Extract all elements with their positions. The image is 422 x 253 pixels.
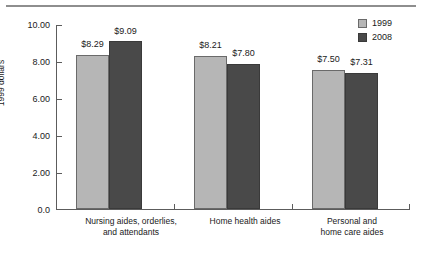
category-label-line: Personal and [292, 216, 412, 227]
legend-label-2008: 2008 [372, 33, 392, 42]
y-axis-tick-2 [57, 173, 62, 174]
y-axis-line [56, 25, 57, 210]
y-axis-tick-8 [57, 62, 62, 63]
category-label-personal-home-care-aides: Personal and home care aides [292, 216, 412, 238]
bar-1999-personal-home-care-aides[interactable] [312, 70, 345, 209]
chart-legend: 1999 2008 [358, 17, 392, 45]
bar-1999-nursing-aides[interactable] [76, 55, 109, 209]
bar-value-label-2008-home-health-aides: $7.80 [211, 48, 276, 58]
y-tick-label-6: 6.00 [0, 95, 50, 104]
bar-1999-home-health-aides[interactable] [194, 56, 227, 209]
y-tick-label-4: 4.00 [0, 132, 50, 141]
y-tick-label-2: 2.00 [0, 169, 50, 178]
top-divider-rule [6, 5, 416, 7]
bar-value-label-2008-nursing-aides: $9.09 [93, 26, 158, 36]
x-axis-tick-3 [409, 204, 410, 210]
category-label-line: and attendants [56, 227, 206, 238]
category-label-line: home care aides [292, 227, 412, 238]
legend-item-2008[interactable]: 2008 [358, 31, 392, 43]
x-axis-tick-2 [292, 204, 293, 210]
y-tick-label-10: 10.00 [0, 21, 50, 30]
legend-item-1999[interactable]: 1999 [358, 17, 392, 29]
y-axis-tick-6 [57, 99, 62, 100]
bar-value-label-2008-personal-home-care-aides: $7.31 [329, 57, 394, 67]
y-tick-label-0: 0.0 [0, 206, 50, 215]
x-axis-tick-1 [174, 204, 175, 210]
plot-area: $8.29 $9.09 $8.21 $7.80 $7.50 $7.31 [56, 25, 410, 210]
legend-swatch-icon-2008 [358, 33, 367, 42]
legend-swatch-icon-1999 [358, 19, 367, 28]
bar-chart: 1999 dollars 10.00 8.00 6.00 4.00 2.00 0… [0, 0, 422, 253]
x-axis-line [56, 209, 410, 210]
bar-2008-home-health-aides[interactable] [227, 64, 260, 209]
y-tick-label-8: 8.00 [0, 58, 50, 67]
category-label-line: Home health aides [180, 216, 310, 227]
y-axis-title: 1999 dollars [0, 38, 6, 128]
legend-label-1999: 1999 [372, 19, 392, 28]
bar-2008-nursing-aides[interactable] [109, 41, 142, 209]
y-axis-tick-4 [57, 136, 62, 137]
bar-2008-personal-home-care-aides[interactable] [345, 73, 378, 209]
category-label-home-health-aides: Home health aides [180, 216, 310, 227]
y-axis-tick-10 [57, 25, 62, 26]
